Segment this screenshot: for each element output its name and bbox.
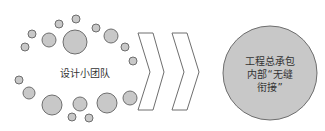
team-member-circle	[73, 97, 87, 111]
team-member-circle	[42, 95, 62, 115]
team-member-circle	[97, 93, 117, 113]
chevron-arrow-1	[138, 33, 164, 110]
team-member-circle	[129, 57, 137, 65]
integrated-label-line-3: 衔接”	[235, 81, 305, 94]
team-member-circle	[123, 91, 137, 105]
team-member-circle	[28, 30, 36, 38]
team-member-circle	[68, 113, 76, 121]
team-member-circle	[92, 24, 100, 32]
team-member-circle	[121, 43, 129, 51]
integrated-label-line-2: 内部“无缝	[235, 68, 305, 81]
diagram-canvas: 设计小团队 工程总承包 内部“无缝 衔接”	[0, 0, 325, 131]
team-member-circle	[42, 33, 56, 47]
team-member-circle	[104, 29, 118, 43]
team-member-circle	[85, 114, 93, 122]
design-team-label: 设计小团队	[40, 65, 130, 80]
team-member-circle	[15, 76, 23, 84]
team-member-circle	[23, 87, 35, 99]
team-member-circle	[72, 15, 80, 23]
integrated-label: 工程总承包 内部“无缝 衔接”	[235, 55, 305, 94]
team-member-circle	[55, 20, 63, 28]
team-member-circle	[63, 30, 87, 54]
integrated-label-line-1: 工程总承包	[235, 55, 305, 68]
chevron-arrow-2	[172, 33, 199, 110]
team-member-circle	[21, 43, 29, 51]
